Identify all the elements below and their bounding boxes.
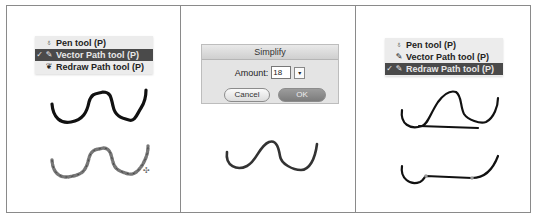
freehand-stroke [52, 90, 146, 122]
drawing-canvas[interactable] [181, 6, 355, 212]
drawing-canvas[interactable] [356, 6, 531, 212]
drawing-canvas[interactable] [7, 6, 180, 212]
redraw-line [419, 126, 478, 128]
panel-vector-path: ♁ Pen tool (P) ✓ ✎ Vector Path tool (P) … [7, 6, 180, 212]
simplified-stroke [227, 141, 317, 170]
panel-simplify: Simplify Amount: 18 ▾ Cancel OK [181, 6, 355, 212]
vector-stroke [52, 146, 148, 177]
anchor-point[interactable] [470, 176, 474, 180]
panel-redraw-path: ♁ Pen tool (P) ✎ Vector Path tool (P) ✓ … [356, 6, 531, 212]
crosshair-cursor-icon: ✣ [143, 166, 150, 175]
anchor-point[interactable] [424, 174, 428, 178]
original-stroke [402, 91, 498, 127]
redrawn-stroke [402, 156, 498, 183]
